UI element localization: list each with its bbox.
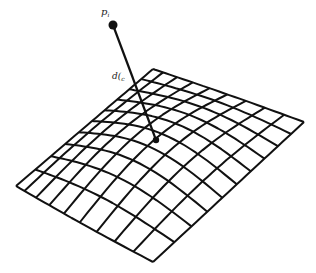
distance-label: d(c bbox=[112, 71, 125, 82]
point-label: pi bbox=[101, 6, 109, 18]
point-p-marker bbox=[109, 21, 118, 30]
surface-diagram: pi d(c bbox=[0, 0, 316, 273]
mesh-line-v bbox=[16, 69, 153, 186]
surface-point-marker bbox=[153, 137, 159, 143]
surface-mesh bbox=[16, 69, 304, 262]
mesh-line-u bbox=[65, 144, 207, 212]
mesh-line-v bbox=[153, 122, 304, 262]
mesh-line-v bbox=[115, 108, 265, 242]
mesh-line-u bbox=[51, 156, 192, 226]
